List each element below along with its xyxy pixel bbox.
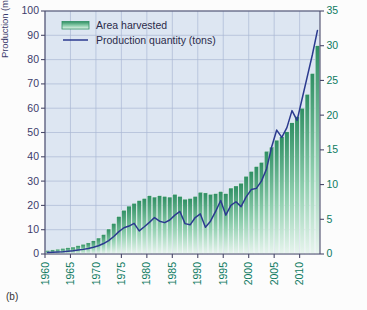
bar — [300, 108, 304, 254]
x-tick-label: 1975 — [115, 262, 127, 286]
bar — [224, 194, 228, 254]
bar — [112, 223, 116, 254]
bar — [213, 194, 217, 254]
bar — [280, 137, 284, 254]
right-tick-label: 15 — [327, 143, 339, 155]
left-axis-title: Production (million metric tons) — [0, 0, 10, 58]
bar — [295, 117, 299, 254]
right-tick-label: 0 — [327, 247, 333, 259]
x-tick-label: 1980 — [140, 262, 152, 286]
bar — [173, 194, 177, 254]
bar — [254, 167, 258, 254]
bar — [285, 132, 289, 254]
bar — [152, 197, 156, 254]
bar — [305, 94, 309, 254]
legend-label-area-harvested: Area harvested — [96, 19, 167, 31]
x-tick-label: 1995 — [217, 262, 229, 286]
bar — [162, 196, 166, 254]
bar — [137, 201, 141, 254]
bar — [244, 176, 248, 254]
right-tick-label: 20 — [327, 109, 339, 121]
legend-label-production: Production quantity (tons) — [96, 34, 216, 46]
left-tick-label: 10 — [27, 223, 39, 235]
bar — [290, 123, 294, 254]
right-tick-label: 30 — [327, 39, 339, 51]
bar — [168, 197, 172, 254]
bar — [122, 210, 126, 254]
bar — [229, 188, 233, 254]
x-tick-label: 1990 — [191, 262, 203, 286]
x-tick-label: 1965 — [64, 262, 76, 286]
left-tick-label: 30 — [27, 175, 39, 187]
bar — [178, 196, 182, 254]
bar — [239, 183, 243, 254]
left-tick-label: 100 — [21, 4, 39, 16]
bar — [315, 46, 319, 254]
bar — [198, 192, 202, 254]
right-tick-label: 25 — [327, 74, 339, 86]
left-tick-label: 60 — [27, 102, 39, 114]
right-tick-label: 10 — [327, 178, 339, 190]
x-tick-label: 2005 — [268, 262, 280, 286]
x-tick-label: 2000 — [242, 262, 254, 286]
bar — [269, 147, 273, 254]
x-tick-label: 1970 — [90, 262, 102, 286]
chart-canvas: 0102030405060708090100051015202530351960… — [0, 0, 367, 310]
left-tick-label: 80 — [27, 53, 39, 65]
bar — [147, 196, 151, 254]
panel-label: (b) — [6, 291, 18, 302]
bar — [275, 140, 279, 254]
bar — [183, 199, 187, 254]
right-tick-label: 35 — [327, 4, 339, 16]
bar — [188, 198, 192, 254]
legend-swatch-area-harvested — [62, 22, 89, 30]
bar — [127, 206, 131, 254]
bar — [132, 203, 136, 254]
left-tick-label: 50 — [27, 126, 39, 138]
left-tick-label: 40 — [27, 150, 39, 162]
x-tick-label: 2010 — [293, 262, 305, 286]
bar — [249, 171, 253, 254]
left-tick-label: 20 — [27, 199, 39, 211]
left-tick-label: 70 — [27, 77, 39, 89]
figure-panel: 0102030405060708090100051015202530351960… — [0, 0, 367, 310]
left-tick-label: 0 — [33, 247, 39, 259]
x-tick-label: 1960 — [39, 262, 51, 286]
bar — [157, 196, 161, 254]
x-tick-label: 1985 — [166, 262, 178, 286]
right-tick-label: 5 — [327, 213, 333, 225]
bar — [310, 73, 314, 254]
bar — [117, 217, 121, 254]
bar — [234, 186, 238, 254]
left-tick-label: 90 — [27, 29, 39, 41]
bar — [193, 196, 197, 254]
